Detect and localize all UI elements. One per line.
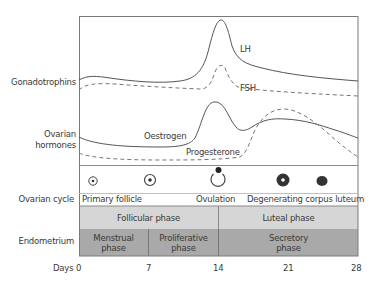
fsh-label: FSH <box>240 83 256 93</box>
corpus-luteum-icon <box>277 174 290 187</box>
progesterone-label: Progesterone <box>186 147 240 157</box>
growing-follicle-icon <box>145 175 156 186</box>
primary-follicle-icon <box>89 177 97 185</box>
lh-label: LH <box>240 44 251 54</box>
lh-curve <box>79 20 358 82</box>
cycle-diagram: LH FSH Oestrogen Progesterone <box>0 0 373 287</box>
oestrogen-curve <box>79 102 358 147</box>
oestrogen-label: Oestrogen <box>144 131 186 141</box>
fsh-curve <box>79 65 358 96</box>
diagram-frame <box>80 17 359 257</box>
ovulation-icon <box>211 167 225 186</box>
degenerating-corpus-luteum-icon <box>317 176 328 186</box>
